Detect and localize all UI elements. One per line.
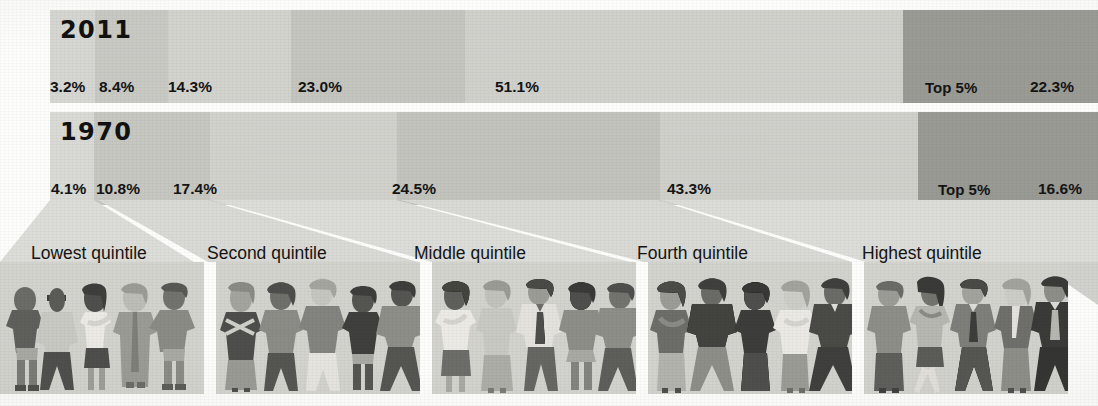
bar-year-label-2011: 2011	[60, 16, 132, 44]
people-panel-lowest	[0, 262, 204, 406]
bar-value-2011-fourth: 23.0%	[298, 78, 342, 96]
bar-value-2011-second: 8.4%	[99, 78, 134, 96]
people-panel-second	[216, 262, 420, 406]
bar-row-1970: 1970 4.1% 10.8% 17.4% 24.5% 43.3% Top 5%…	[0, 112, 1098, 205]
quintile-label-lowest: Lowest quintile	[31, 243, 147, 264]
bar-value-1970-middle: 17.4%	[173, 180, 217, 198]
quintile-label-fourth: Fourth quintile	[637, 243, 748, 264]
bar-value-1970-second: 10.8%	[96, 180, 140, 198]
people-illustration-lowest	[0, 262, 204, 406]
people-illustration-highest	[864, 262, 1068, 406]
bar-value-2011-lowest: 3.2%	[50, 78, 85, 96]
bar-value-2011-middle: 14.3%	[168, 78, 212, 96]
people-illustration-second	[216, 262, 420, 406]
quintile-label-middle: Middle quintile	[414, 243, 526, 264]
people-panel-middle	[432, 262, 636, 406]
bar-top5-value-1970: 16.6%	[1038, 180, 1082, 198]
bar-segment-1970-fourth[interactable]	[397, 112, 660, 205]
people-illustration-middle	[432, 262, 636, 406]
bar-segment-1970-middle[interactable]	[210, 112, 397, 205]
bar-top5-value-2011: 22.3%	[1030, 78, 1074, 96]
quintile-label-highest: Highest quintile	[862, 243, 982, 264]
people-panel-highest	[864, 262, 1068, 406]
bar-value-1970-highest: 43.3%	[667, 180, 711, 198]
bar-row-2011: 2011 3.2% 8.4% 14.3% 23.0% 51.1% Top 5% …	[0, 10, 1098, 103]
bar-top5-label-1970: Top 5%	[938, 181, 990, 198]
bar-value-1970-lowest: 4.1%	[51, 180, 86, 198]
quintile-label-second: Second quintile	[207, 243, 327, 264]
infographic-canvas: 2011 3.2% 8.4% 14.3% 23.0% 51.1% Top 5% …	[0, 0, 1098, 406]
people-panel-fourth	[648, 262, 852, 406]
bar-year-label-1970: 1970	[60, 118, 132, 146]
people-illustration-fourth	[648, 262, 852, 406]
bar-value-2011-highest: 51.1%	[495, 78, 539, 96]
bar-top5-label-2011: Top 5%	[925, 79, 977, 96]
bar-value-1970-fourth: 24.5%	[392, 180, 436, 198]
